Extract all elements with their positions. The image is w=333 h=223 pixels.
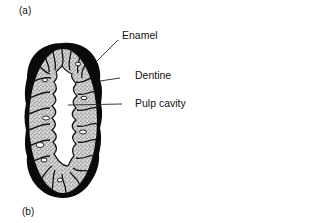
enamel-leader-line [97, 40, 118, 61]
dentine-label: Dentine [135, 70, 171, 81]
tooth-cross-section-diagram [0, 0, 333, 223]
enamel-label: Enamel [122, 30, 158, 41]
pulp-cavity-label: Pulp cavity [135, 98, 186, 109]
dentine-leader-line [100, 78, 120, 81]
